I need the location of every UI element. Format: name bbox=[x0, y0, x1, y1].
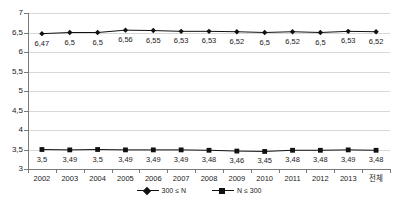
data-point-label: 3,48 bbox=[202, 156, 217, 164]
data-point-label: 3,49 bbox=[62, 156, 77, 164]
y-axis-tick bbox=[24, 52, 28, 53]
legend: 300 ≤ N N ≤ 300 bbox=[0, 186, 398, 195]
data-point-diamond[interactable] bbox=[95, 30, 100, 35]
square-marker-icon bbox=[212, 186, 234, 195]
data-point-label: 3,45 bbox=[257, 157, 272, 165]
diamond-marker-icon bbox=[137, 186, 159, 195]
data-point-diamond[interactable] bbox=[206, 29, 211, 34]
data-point-label: 3,5 bbox=[92, 156, 102, 164]
y-axis-tick bbox=[24, 33, 28, 34]
y-axis-tick bbox=[24, 111, 28, 112]
data-point-label: 6,55 bbox=[146, 37, 161, 45]
data-point-square[interactable] bbox=[179, 147, 184, 152]
data-point-label: 3,48 bbox=[285, 156, 300, 164]
data-point-label: 3,49 bbox=[146, 156, 161, 164]
y-axis-tick bbox=[24, 150, 28, 151]
data-point-square[interactable] bbox=[95, 147, 100, 152]
data-point-square[interactable] bbox=[346, 147, 351, 152]
data-point-diamond[interactable] bbox=[123, 27, 128, 32]
data-point-diamond[interactable] bbox=[67, 30, 72, 35]
legend-item-series-2[interactable]: N ≤ 300 bbox=[212, 186, 261, 195]
data-point-square[interactable] bbox=[123, 147, 128, 152]
y-axis-tick bbox=[24, 91, 28, 92]
data-point-diamond[interactable] bbox=[234, 29, 239, 34]
data-point-diamond[interactable] bbox=[318, 30, 323, 35]
data-point-diamond[interactable] bbox=[39, 31, 44, 36]
data-point-diamond[interactable] bbox=[346, 29, 351, 34]
data-point-label: 6,53 bbox=[341, 37, 356, 45]
data-point-square[interactable] bbox=[374, 148, 379, 153]
data-point-label: 3,49 bbox=[174, 156, 189, 164]
data-point-label: 6,56 bbox=[118, 36, 133, 44]
y-axis-tick bbox=[24, 169, 28, 170]
data-point-square[interactable] bbox=[151, 147, 156, 152]
legend-item-series-1[interactable]: 300 ≤ N bbox=[137, 186, 186, 195]
legend-label: N ≤ 300 bbox=[237, 187, 261, 195]
data-point-square[interactable] bbox=[290, 148, 295, 153]
y-axis-tick bbox=[24, 72, 28, 73]
data-point-label: 6,5 bbox=[65, 39, 75, 47]
data-point-label: 6,53 bbox=[174, 37, 189, 45]
data-point-label: 6,53 bbox=[202, 37, 217, 45]
data-point-square[interactable] bbox=[262, 149, 267, 154]
data-point-label: 6,52 bbox=[285, 38, 300, 46]
data-point-label: 6,5 bbox=[259, 39, 269, 47]
data-point-diamond[interactable] bbox=[151, 28, 156, 33]
data-point-label: 6,52 bbox=[369, 38, 384, 46]
data-point-label: 6,5 bbox=[92, 39, 102, 47]
data-point-label: 6,52 bbox=[230, 38, 245, 46]
y-axis-tick bbox=[24, 13, 28, 14]
data-point-label: 3,48 bbox=[313, 156, 328, 164]
data-point-label: 3,5 bbox=[37, 156, 47, 164]
data-point-label: 3,49 bbox=[341, 156, 356, 164]
data-point-diamond[interactable] bbox=[373, 29, 378, 34]
data-point-label: 6,47 bbox=[35, 40, 50, 48]
y-axis-tick bbox=[24, 130, 28, 131]
data-point-square[interactable] bbox=[234, 149, 239, 154]
legend-label: 300 ≤ N bbox=[162, 187, 186, 195]
data-point-label: 3,48 bbox=[369, 156, 384, 164]
data-point-label: 6,5 bbox=[315, 39, 325, 47]
series-layer bbox=[0, 0, 398, 205]
data-point-label: 3,46 bbox=[230, 157, 245, 165]
data-point-square[interactable] bbox=[207, 148, 212, 153]
data-point-label: 3,49 bbox=[118, 156, 133, 164]
data-point-diamond[interactable] bbox=[262, 30, 267, 35]
data-point-diamond[interactable] bbox=[178, 29, 183, 34]
line-chart: 76,565,554,543,53 2002200320042005200620… bbox=[0, 0, 398, 205]
data-point-square[interactable] bbox=[318, 148, 323, 153]
data-point-square[interactable] bbox=[67, 147, 72, 152]
data-point-square[interactable] bbox=[40, 147, 45, 152]
data-point-diamond[interactable] bbox=[290, 29, 295, 34]
